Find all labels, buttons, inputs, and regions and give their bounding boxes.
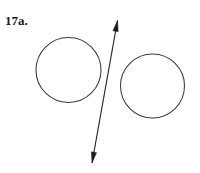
geometry-canvas — [0, 0, 200, 173]
right-circle — [121, 54, 185, 118]
figure-container: 17a. — [0, 0, 200, 173]
arrowhead-top-icon — [113, 21, 118, 32]
transversal-line — [92, 21, 118, 164]
left-circle — [36, 38, 101, 103]
arrowhead-bottom-icon — [91, 152, 96, 163]
